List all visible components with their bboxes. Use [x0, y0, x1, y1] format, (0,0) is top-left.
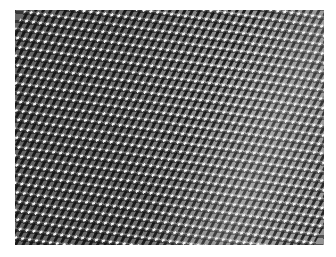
light-sheen: [15, 10, 324, 245]
mesh-photo: [15, 10, 324, 245]
